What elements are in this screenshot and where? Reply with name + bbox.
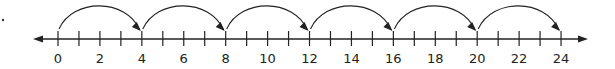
jump-arc bbox=[227, 6, 309, 31]
tick-label: 6 bbox=[180, 51, 188, 66]
arrowhead-icon bbox=[551, 22, 560, 31]
tick-label: 0 bbox=[54, 51, 62, 66]
arrowhead-icon bbox=[300, 22, 309, 31]
jump-arc bbox=[478, 6, 560, 31]
tick-label: 14 bbox=[343, 51, 360, 66]
tick-label: 10 bbox=[259, 51, 276, 66]
arrowhead-icon bbox=[383, 22, 392, 31]
tick-label: 16 bbox=[385, 51, 402, 66]
tick-label: 4 bbox=[138, 51, 146, 66]
tick-label: 2 bbox=[96, 51, 104, 66]
jump-arc bbox=[143, 6, 225, 31]
arrowhead-icon bbox=[467, 22, 476, 31]
number-line-axis bbox=[33, 36, 588, 43]
right-arrow-icon bbox=[578, 36, 588, 43]
tick-label: 8 bbox=[222, 51, 230, 66]
stray-dot bbox=[2, 19, 4, 21]
tick-label: 12 bbox=[301, 51, 318, 66]
tick-labels: 024681012141618202224 bbox=[54, 51, 569, 66]
jump-arcs bbox=[59, 6, 560, 31]
tick-label: 20 bbox=[469, 51, 486, 66]
jump-arc bbox=[59, 6, 141, 31]
arrowhead-icon bbox=[216, 22, 225, 31]
left-arrow-icon bbox=[33, 36, 43, 43]
arrowhead-icon bbox=[132, 22, 141, 31]
tick-label: 22 bbox=[511, 51, 528, 66]
number-line-diagram: 024681012141618202224 bbox=[0, 0, 615, 69]
jump-arc bbox=[311, 6, 393, 31]
jump-arc bbox=[394, 6, 476, 31]
tick-label: 18 bbox=[427, 51, 444, 66]
tick-label: 24 bbox=[553, 51, 570, 66]
